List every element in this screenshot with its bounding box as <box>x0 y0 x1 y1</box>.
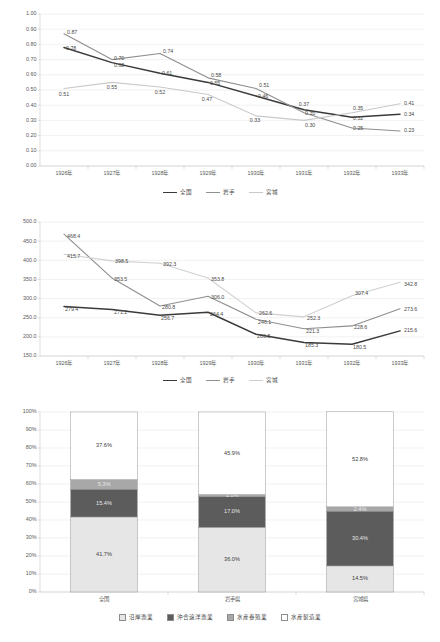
legend-label: 宮城 <box>266 378 278 384</box>
legend-item-岩手[interactable]: 岩手 <box>206 378 235 384</box>
data-label: 0.55 <box>210 80 220 86</box>
x-axis-category-label: 1926年 <box>56 359 74 367</box>
chart-stacked-bar-composition: 0%10%20%30%40%50%60%70%80%90%100%41.7%15… <box>0 400 440 642</box>
data-label: 0.37 <box>299 101 309 107</box>
legend-label: 水産製造業 <box>291 615 321 621</box>
legend-item-沖合遠洋漁業[interactable]: 沖合遠洋漁業 <box>167 614 213 621</box>
x-axis-category-label: 1928年 <box>152 359 170 367</box>
bar-segment-label: 14.5% <box>352 575 368 581</box>
y-axis-tick-label: 30% <box>26 534 37 540</box>
data-label: 0.58 <box>211 72 221 78</box>
legend-item-宮城[interactable]: 宮城 <box>249 190 278 196</box>
data-label: 221.3 <box>306 328 319 334</box>
bar-segment-label: 17.0% <box>224 508 240 514</box>
data-label: 392.3 <box>163 261 176 267</box>
y-axis-tick-label: 0.80 <box>26 41 37 47</box>
chart2-legend: 全国岩手宮城 <box>0 378 440 384</box>
data-label: 415.7 <box>67 253 80 259</box>
chart-line-index: 150.0200.0250.0300.0350.0400.0450.0500.0… <box>0 212 440 400</box>
x-axis-category-label: 1930年 <box>248 359 266 367</box>
chart-line-ratio: 0.000.100.200.300.400.500.600.700.800.90… <box>0 0 440 212</box>
data-label: 0.74 <box>163 48 173 54</box>
legend-color-swatch <box>281 614 288 621</box>
x-axis-category-label: 1927年 <box>104 169 122 177</box>
chart3-plot-area: 0%10%20%30%40%50%60%70%80%90%100%41.7%15… <box>0 406 440 612</box>
y-axis-tick-label: 40% <box>26 516 37 522</box>
x-axis-category-label: 1926年 <box>56 169 74 177</box>
data-label: 280.8 <box>162 304 175 310</box>
data-label: 0.70 <box>114 55 124 61</box>
data-label: 353.8 <box>211 276 224 282</box>
y-axis-tick-label: 0.10 <box>26 147 37 153</box>
data-label: 0.30 <box>305 122 315 128</box>
y-axis-tick-label: 50% <box>26 498 37 504</box>
legend-label: 全国 <box>180 378 192 384</box>
data-label: 264.4 <box>210 311 223 317</box>
legend-line-swatch <box>249 380 263 381</box>
y-axis-tick-label: 0.00 <box>26 162 37 168</box>
data-label: 0.68 <box>114 62 124 68</box>
y-axis-tick-label: 100% <box>23 408 37 414</box>
chart3-svg: 0%10%20%30%40%50%60%70%80%90%100%41.7%15… <box>0 406 440 612</box>
y-axis-tick-label: 0.70 <box>26 56 37 62</box>
legend-item-水産製造業[interactable]: 水産製造業 <box>281 614 321 621</box>
y-axis-tick-label: 500.0 <box>23 218 37 224</box>
x-axis-category-label: 1931年 <box>296 359 314 367</box>
data-label: 206.8 <box>257 333 270 339</box>
data-label: 0.46 <box>258 93 268 99</box>
bar-segment-label: 45.9% <box>224 450 240 456</box>
y-axis-tick-label: 250.0 <box>23 314 37 320</box>
data-label: 398.5 <box>115 258 128 264</box>
data-label: 353.5 <box>114 276 127 282</box>
legend-color-swatch <box>227 614 234 621</box>
data-label: 279.4 <box>65 306 78 312</box>
bar-segment-label: 52.8% <box>352 456 368 462</box>
legend-item-全国[interactable]: 全国 <box>163 190 192 196</box>
legend-label: 宮城 <box>266 190 278 196</box>
data-label: 215.6 <box>404 327 417 333</box>
y-axis-tick-label: 0.90 <box>26 26 37 32</box>
data-label: 0.33 <box>250 117 260 123</box>
y-axis-tick-label: 0.50 <box>26 86 37 92</box>
y-axis-tick-label: 60% <box>26 480 37 486</box>
data-label: 0.34 <box>404 111 414 117</box>
y-axis-tick-label: 80% <box>26 444 37 450</box>
x-axis-category-label: 岩手県 <box>225 595 241 603</box>
data-label: 0.47 <box>202 96 212 102</box>
bar-segment-label: 36.0% <box>224 556 240 562</box>
data-label: 0.35 <box>353 105 363 111</box>
data-label: 0.32 <box>353 115 363 121</box>
data-label: 252.3 <box>307 315 320 321</box>
x-axis-category-label: 1929年 <box>200 169 218 177</box>
data-label: 0.51 <box>259 82 269 88</box>
bar-segment-label: 41.7% <box>96 551 112 557</box>
chart2-plot-area: 150.0200.0250.0300.0350.0400.0450.0500.0… <box>0 216 440 376</box>
data-label: 0.51 <box>59 91 69 97</box>
chart3-legend: 沿岸漁業沖合遠洋漁業水産養殖業水産製造業 <box>0 614 440 621</box>
y-axis-tick-label: 0.30 <box>26 117 37 123</box>
data-label: 0.23 <box>404 127 414 133</box>
data-label: 0.35 <box>305 110 315 116</box>
y-axis-tick-label: 350.0 <box>23 276 37 282</box>
data-label: 468.4 <box>67 233 80 239</box>
y-axis-tick-label: 0% <box>29 588 37 594</box>
legend-item-宮城[interactable]: 宮城 <box>249 378 278 384</box>
data-label: 0.25 <box>353 125 363 131</box>
legend-item-沿岸漁業[interactable]: 沿岸漁業 <box>119 614 153 621</box>
chart1-plot-area: 0.000.100.200.300.400.500.600.700.800.90… <box>0 6 440 188</box>
y-axis-tick-label: 400.0 <box>23 257 37 263</box>
data-label: 0.61 <box>162 70 172 76</box>
legend-item-水産養殖業[interactable]: 水産養殖業 <box>227 614 267 621</box>
bar-segment-label: 37.6% <box>96 442 112 448</box>
bar-segment-label: 5.3% <box>98 481 111 487</box>
legend-label: 沿岸漁業 <box>129 615 153 621</box>
legend-item-全国[interactable]: 全国 <box>163 378 192 384</box>
data-label: 0.55 <box>107 84 117 90</box>
data-label: 246.1 <box>258 319 271 325</box>
y-axis-tick-label: 150.0 <box>23 352 37 358</box>
legend-line-swatch <box>163 380 177 381</box>
y-axis-tick-label: 0.40 <box>26 102 37 108</box>
data-label: 256.7 <box>161 315 174 321</box>
legend-line-swatch <box>249 192 263 193</box>
legend-item-岩手[interactable]: 岩手 <box>206 190 235 196</box>
